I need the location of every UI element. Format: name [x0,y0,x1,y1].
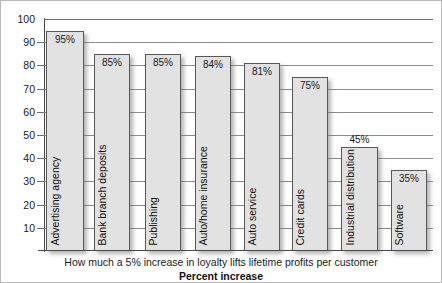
y-axis-tick-mark [37,135,44,136]
bar-value-label: 35% [392,174,426,184]
bar-category-label: Auto/home insurance [198,146,209,245]
bar: 84%Auto/home insurance [195,56,231,251]
bar-category-label: Bank branch deposits [97,144,108,245]
y-axis-tick-label: 10 [5,223,35,234]
y-axis-tick-label: 30 [5,176,35,187]
y-axis-tick-mark [37,158,44,159]
y-axis-tick-label: 100 [5,14,35,25]
y-axis-tick-mark [37,42,44,43]
bar-value-label: 85% [95,58,129,68]
bar: 95%Advertising agency [46,31,84,251]
y-axis-tick-label: 20 [5,200,35,211]
y-axis-tick-mark [37,228,44,229]
y-axis-tick-label: 50 [5,130,35,141]
bar-category-label: Software [394,204,405,245]
bar-value-label: 81% [245,67,279,77]
plot-area: 95%Advertising agency85%Bank branch depo… [44,19,433,251]
y-axis-labels: 100908070605040302010 [1,1,35,283]
bar: 85%Publishing [145,54,181,251]
gridline [44,19,433,20]
bar-category-label: Industrial distribution [344,149,355,245]
bar: 85%Bank branch deposits [94,54,130,251]
y-axis-tick-mark [37,181,44,182]
bar-value-label: 95% [47,35,83,45]
x-axis-title: Percent increase [1,271,441,283]
bar-value-label: 75% [293,81,327,91]
bar-value-label: 45% [342,135,377,145]
bar: 81%Auto service [244,63,280,251]
gridline [44,42,433,43]
y-axis-tick-mark [37,205,44,206]
y-axis-tick-label: 90 [5,37,35,48]
bar-category-label: Auto service [247,187,258,245]
y-axis-tick-mark [37,89,44,90]
chart-caption: How much a 5% increase in loyalty lifts … [1,257,441,269]
y-axis-tick-label: 70 [5,84,35,95]
bar-category-label: Credit cards [295,188,306,245]
bar-category-label: Publishing [148,197,159,245]
y-axis-tick-label: 60 [5,107,35,118]
bar-category-label: Advertising agency [50,156,61,245]
bar-chart-figure: 100908070605040302010 95%Advertising age… [0,0,442,283]
bar-value-label: 85% [146,58,180,68]
x-axis-baseline [38,250,433,251]
bar: 35%Software [391,170,427,251]
bar-value-label: 84% [196,60,230,70]
y-axis-tick-mark [37,65,44,66]
y-axis-tick-mark [37,112,44,113]
bar: 75%Credit cards [292,77,328,251]
y-axis-tick-label: 80 [5,60,35,71]
bar: 45%Industrial distribution [341,147,378,251]
y-axis-tick-label: 40 [5,153,35,164]
